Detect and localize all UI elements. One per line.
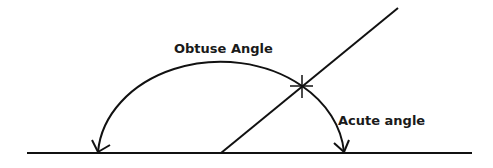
acute-angle-label: Acute angle: [338, 113, 425, 128]
ray: [221, 8, 398, 153]
angle-diagram: Obtuse Angle Acute angle: [0, 0, 493, 168]
obtuse-arc: [98, 62, 302, 152]
left-arrowhead-icon: [92, 140, 110, 152]
obtuse-angle-label: Obtuse Angle: [174, 41, 273, 56]
